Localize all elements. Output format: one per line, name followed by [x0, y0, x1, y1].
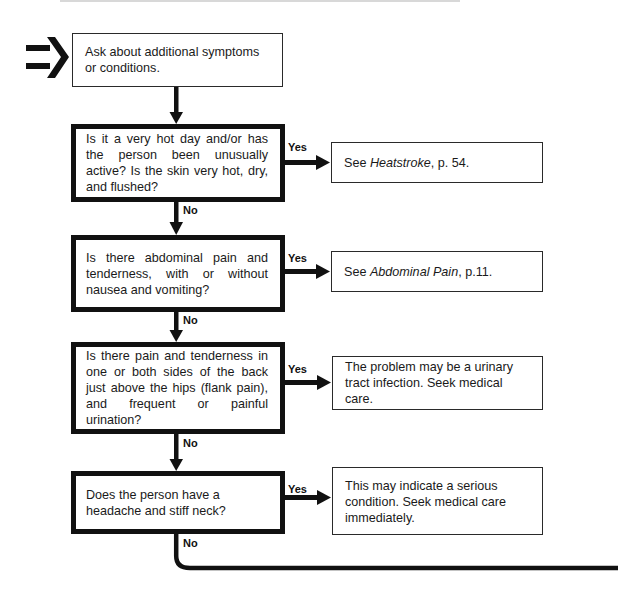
yes-label: Yes [288, 363, 307, 375]
no-label: No [183, 437, 198, 449]
start-box: Ask about additional symptoms or conditi… [72, 33, 283, 87]
result-box-abdominal-pain: See Abdominal Pain, p.11. [331, 251, 543, 292]
start-text: Ask about additional symptoms or conditi… [85, 44, 270, 76]
result-box-heatstroke: See Heatstroke, p. 54. [331, 142, 543, 183]
result-box-urinary-infection: The problem may be a urinary tract infec… [332, 356, 543, 410]
arrow-right-icon [284, 375, 331, 390]
arrow-right-icon [284, 264, 330, 279]
question-box-flank-pain: Is there pain and tenderness in one or b… [71, 342, 285, 434]
arrow-down-icon [170, 201, 184, 235]
question-text: Is there pain and tenderness in one or b… [86, 348, 268, 428]
yes-label: Yes [288, 252, 307, 264]
arrow-down-icon [170, 311, 184, 342]
arrow-right-icon [284, 155, 330, 170]
no-label: No [183, 537, 198, 549]
result-text: This may indicate a serious condition. S… [345, 478, 530, 526]
reference-link-abdominal-pain: Abdominal Pain [370, 265, 458, 279]
reference-link-heatstroke: Heatstroke [370, 156, 431, 170]
question-box-heat: Is it a very hot day and/or has the pers… [71, 124, 285, 202]
result-box-serious-condition: This may indicate a serious condition. S… [332, 467, 543, 535]
result-text: The problem may be a urinary tract infec… [345, 359, 530, 407]
double-arrow-right-icon [26, 37, 69, 78]
result-text: See Heatstroke, p. 54. [344, 155, 530, 171]
continue-connector [176, 533, 618, 568]
question-box-abdominal: Is there abdominal pain and tenderness, … [71, 235, 285, 312]
question-text: Is it a very hot day and/or has the pers… [86, 131, 268, 195]
arrow-down-icon [170, 86, 184, 124]
yes-label: Yes [288, 141, 307, 153]
result-text: See Abdominal Pain, p.11. [344, 264, 530, 280]
question-box-headache: Does the person have a headache and stif… [71, 471, 285, 534]
arrow-down-icon [170, 433, 184, 471]
yes-label: Yes [288, 483, 307, 495]
no-label: No [183, 314, 198, 326]
no-label: No [183, 204, 198, 216]
question-text: Is there abdominal pain and tenderness, … [86, 250, 268, 298]
question-text: Does the person have a headache and stif… [86, 487, 268, 519]
